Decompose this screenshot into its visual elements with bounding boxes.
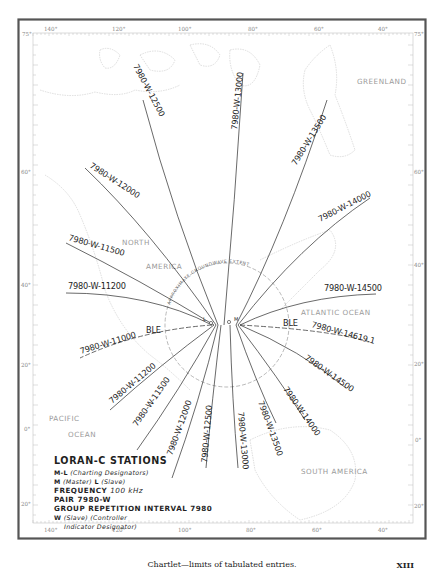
- ble-label-west: BLE: [146, 325, 161, 335]
- lon-label: 40°: [378, 26, 388, 32]
- legend-row-w: W (Slave) (Controller: [54, 513, 212, 522]
- lon-label: 80°: [248, 26, 258, 32]
- page-number: XIII: [397, 560, 414, 570]
- lat-label: 75°: [22, 31, 32, 37]
- region-label-atlantic-ocean: ATLANTIC OCEAN: [301, 308, 371, 317]
- lon-label: 80°: [246, 527, 256, 533]
- lon-label: 60°: [314, 26, 324, 32]
- region-label-south-america: SOUTH AMERICA: [301, 467, 368, 476]
- map-frame: [20, 20, 205, 137]
- station-l-label: L: [203, 316, 206, 322]
- map-neatline: [19, 20, 206, 138]
- lat-label: 0°: [415, 437, 422, 443]
- legend-row-w2: Indicator Designator): [54, 522, 212, 531]
- top-axis-ticks: [33, 33, 409, 36]
- lop-label: 7980-W-13000: [236, 411, 251, 469]
- region-label-pacific: PACIFIC: [49, 414, 80, 423]
- lat-label: 60°: [21, 169, 31, 175]
- right-axis-labels: 60° 40° 20° 0° 20°: [414, 169, 424, 509]
- lon-label: 120°: [112, 26, 126, 32]
- legend: LORAN-C STATIONS M-L (Charting Designato…: [54, 455, 212, 531]
- lines-of-position: [66, 73, 376, 478]
- left-axis-labels: 60° 40° 20° 0° 20°: [21, 169, 31, 507]
- lop-label: 7980-W-14000: [316, 189, 372, 224]
- legend-title: LORAN-C STATIONS: [54, 455, 212, 466]
- figure-caption: Chartlet—limits of tabulated entries.: [0, 560, 444, 569]
- station-slave-marker: [209, 321, 212, 324]
- station-master-marker: [227, 320, 230, 323]
- legend-row-frequency: FREQUENCY 100 kHz: [54, 486, 212, 495]
- lop-label: 7980-W-13500: [289, 113, 328, 167]
- right-axis-ticks: [408, 45, 413, 515]
- lat-label: 40°: [414, 262, 424, 268]
- lat-label: 40°: [21, 282, 31, 288]
- lat-label: 0°: [24, 426, 31, 432]
- lat-label: 20°: [21, 501, 31, 507]
- lat-label: 20°: [21, 362, 31, 368]
- lop-label: 7980-W-14000: [281, 384, 322, 437]
- lon-label: 40°: [378, 527, 388, 533]
- lon-label: 140°: [44, 26, 58, 32]
- lop-label: 7980-W-14500: [303, 352, 356, 393]
- graticule-frame: [33, 33, 413, 523]
- legend-row-pair: PAIR 7980-W: [54, 495, 212, 504]
- map-border: [20, 20, 207, 137]
- region-label-greenland: GREENLAND: [357, 77, 407, 86]
- region-label-america: AMERICA: [146, 262, 182, 271]
- chart-frame: [19, 20, 206, 138]
- lon-label: 60°: [312, 527, 322, 533]
- lop-label: 7980-W-11500: [67, 232, 125, 258]
- lop-label: 7980-W-13000: [229, 72, 245, 131]
- legend-row-gri: GROUP REPETITION INTERVAL 7980: [54, 504, 212, 513]
- top-axis-labels: 75° 140° 120° 100° 80° 60° 40° 75°: [22, 26, 424, 37]
- ble-label-east: BLE: [283, 318, 298, 328]
- lop-label: 7980-W-13500: [256, 399, 285, 457]
- lat-label: 20°: [414, 361, 424, 367]
- lop-label: 7980-W-14619.1: [310, 319, 376, 346]
- lat-label: 60°: [414, 169, 424, 175]
- legend-row-ml: M-L (Charting Designators): [54, 468, 212, 477]
- legend-row-ms: M (Master) L (Slave): [54, 477, 212, 486]
- lop-label: 7980-W-11200: [68, 281, 126, 291]
- lop-label: 7980-W-12000: [88, 160, 142, 200]
- lat-label: 20°: [414, 503, 424, 509]
- lat-label: 75°: [414, 31, 424, 37]
- lop-label: 7980-W-14500: [324, 283, 382, 293]
- lon-label: 100°: [178, 26, 192, 32]
- lop-label: 7980-W-11000: [79, 329, 137, 355]
- left-axis-ticks: [33, 45, 38, 515]
- station-m-label: M: [234, 316, 238, 322]
- region-label-ocean: OCEAN: [68, 430, 96, 439]
- region-label-north: NORTH: [122, 238, 150, 247]
